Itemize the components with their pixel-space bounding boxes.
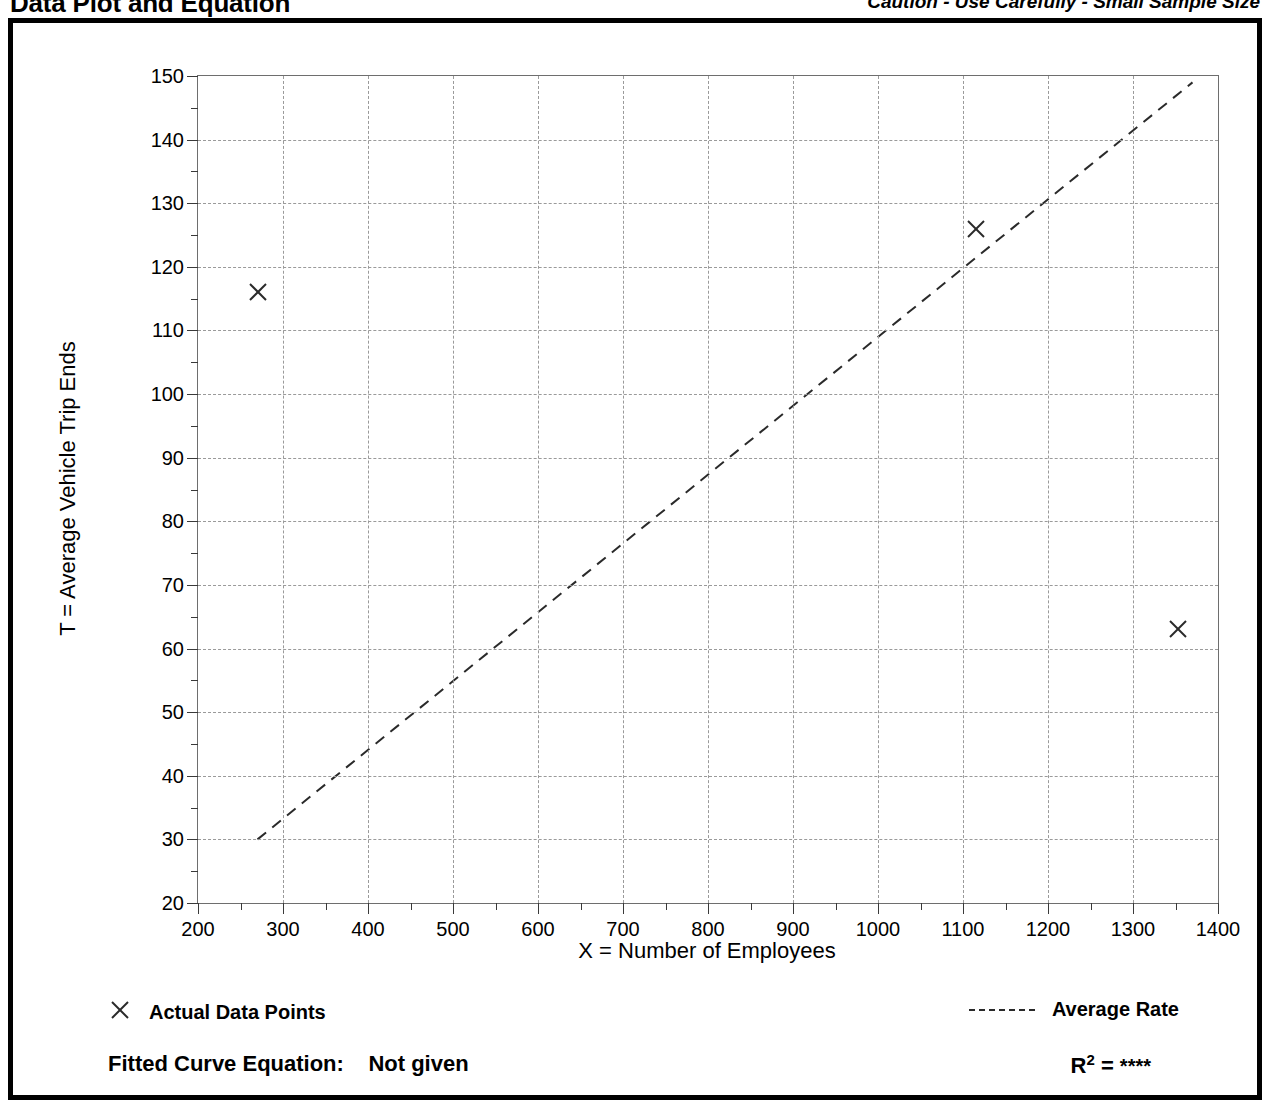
x-axis-tick	[283, 903, 284, 914]
y-axis-tick-label: 20	[124, 893, 184, 913]
fitted-curve-equation: Fitted Curve Equation: Not given	[108, 1051, 469, 1077]
legend-item-average-rate: Average Rate	[969, 998, 1179, 1021]
y-axis-tick-label: 70	[124, 575, 184, 595]
x-axis-tick	[1218, 903, 1219, 914]
x-axis-minor-tick	[921, 903, 922, 910]
y-axis-tick	[187, 839, 198, 840]
y-axis-tick-label: 90	[124, 448, 184, 468]
x-axis-tick-label: 600	[498, 918, 578, 940]
y-axis-minor-tick	[191, 171, 198, 172]
legend-item-data-points: Actual Data Points	[108, 998, 326, 1026]
data-point-marker	[965, 218, 987, 240]
x-axis-minor-tick	[1176, 903, 1177, 910]
x-axis-tick	[1048, 903, 1049, 914]
r-squared-label: R	[1071, 1053, 1087, 1078]
y-axis-tick	[187, 903, 198, 904]
y-axis-minor-tick	[191, 680, 198, 681]
data-point-marker	[247, 281, 269, 303]
x-axis-tick	[368, 903, 369, 914]
chart-frame: T = Average Vehicle Trip Ends 2003004005…	[8, 18, 1262, 1100]
fitted-curve-label: Fitted Curve Equation:	[108, 1051, 344, 1076]
y-axis-tick	[187, 330, 198, 331]
x-marker-icon	[108, 998, 132, 1026]
y-axis-title: T = Average Vehicle Trip Ends	[55, 75, 81, 902]
y-axis-minor-tick	[191, 426, 198, 427]
caution-note: Caution - Use Carefully - Small Sample S…	[867, 0, 1260, 13]
x-axis-tick	[1133, 903, 1134, 914]
chart-area: T = Average Vehicle Trip Ends 2003004005…	[13, 23, 1257, 1095]
r-squared-value: ****	[1120, 1055, 1151, 1077]
y-axis-tick-label: 140	[124, 130, 184, 150]
y-axis-minor-tick	[191, 490, 198, 491]
y-axis-tick	[187, 394, 198, 395]
x-axis-tick-label: 1000	[838, 918, 918, 940]
x-axis-tick	[623, 903, 624, 914]
x-axis-tick-label: 800	[668, 918, 748, 940]
y-axis-minor-tick	[191, 299, 198, 300]
x-axis-minor-tick	[241, 903, 242, 910]
x-axis-tick-label: 300	[243, 918, 323, 940]
dashed-line-icon	[969, 1009, 1035, 1011]
x-axis-tick	[963, 903, 964, 914]
y-axis-tick-label: 50	[124, 702, 184, 722]
y-axis-tick-label: 60	[124, 639, 184, 659]
x-axis-tick	[453, 903, 454, 914]
y-axis-tick	[187, 521, 198, 522]
x-axis-minor-tick	[666, 903, 667, 910]
trendline-segment	[258, 82, 1193, 839]
x-axis-tick-label: 500	[413, 918, 493, 940]
y-axis-tick-label: 110	[124, 320, 184, 340]
y-axis-tick-label: 100	[124, 384, 184, 404]
x-axis-minor-tick	[751, 903, 752, 910]
x-axis-tick	[878, 903, 879, 914]
x-axis-tick-label: 700	[583, 918, 663, 940]
y-axis-minor-tick	[191, 808, 198, 809]
x-axis-tick-label: 1200	[1008, 918, 1088, 940]
y-axis-tick-label: 120	[124, 257, 184, 277]
x-axis-tick	[708, 903, 709, 914]
y-axis-minor-tick	[191, 553, 198, 554]
y-axis-tick	[187, 203, 198, 204]
x-axis-minor-tick	[836, 903, 837, 910]
x-axis-tick	[793, 903, 794, 914]
chart-legend: Actual Data Points Average Rate	[13, 998, 1257, 1044]
y-axis-tick-label: 30	[124, 829, 184, 849]
x-axis-tick-label: 200	[158, 918, 238, 940]
x-axis-minor-tick	[1091, 903, 1092, 910]
y-axis-tick-label: 40	[124, 766, 184, 786]
y-axis-tick	[187, 76, 198, 77]
y-axis-minor-tick	[191, 871, 198, 872]
y-axis-minor-tick	[191, 235, 198, 236]
x-axis-tick-label: 1100	[923, 918, 1003, 940]
x-axis-minor-tick	[326, 903, 327, 910]
page-header: Data Plot and Equation Caution - Use Car…	[0, 0, 1274, 18]
y-axis-tick	[187, 140, 198, 141]
y-axis-tick	[187, 649, 198, 650]
r-squared-readout: R2 = ****	[1071, 1051, 1151, 1079]
y-axis-minor-tick	[191, 362, 198, 363]
x-axis-tick-label: 900	[753, 918, 833, 940]
x-axis-minor-tick	[411, 903, 412, 910]
x-axis-title: X = Number of Employees	[197, 938, 1217, 964]
legend-label-data-points: Actual Data Points	[149, 1001, 326, 1024]
plot-region: 2003004005006007008009001000110012001300…	[197, 75, 1219, 904]
y-axis-tick-label: 80	[124, 511, 184, 531]
x-axis-tick	[198, 903, 199, 914]
page-title: Data Plot and Equation	[10, 0, 290, 19]
y-axis-tick	[187, 712, 198, 713]
y-axis-minor-tick	[191, 617, 198, 618]
r-squared-exponent: 2	[1086, 1051, 1094, 1068]
x-axis-minor-tick	[496, 903, 497, 910]
x-axis-minor-tick	[581, 903, 582, 910]
average-rate-trendline	[198, 76, 1218, 903]
x-axis-tick-label: 1300	[1093, 918, 1173, 940]
y-axis-tick	[187, 458, 198, 459]
y-axis-minor-tick	[191, 108, 198, 109]
fitted-curve-value: Not given	[368, 1051, 468, 1076]
x-axis-tick-label: 1400	[1178, 918, 1258, 940]
equation-row: Fitted Curve Equation: Not given R2 = **…	[13, 1051, 1257, 1091]
y-axis-tick	[187, 585, 198, 586]
y-axis-minor-tick	[191, 744, 198, 745]
legend-label-average-rate: Average Rate	[1052, 998, 1179, 1021]
y-axis-tick-label: 130	[124, 193, 184, 213]
